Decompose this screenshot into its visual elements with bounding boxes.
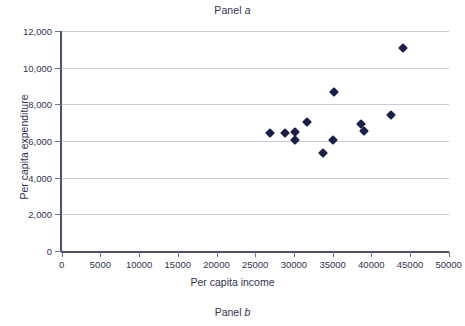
scatter-figure: Panel a 02,0004,0006,0008,00010,00012,00… (0, 0, 465, 326)
y-tick (55, 178, 61, 179)
x-tick (217, 252, 218, 257)
x-tick (371, 252, 372, 257)
x-tick-label: 5000 (90, 259, 111, 270)
x-tick-label: 50000 (435, 259, 461, 270)
x-tick (62, 252, 63, 257)
data-point (302, 117, 312, 127)
x-tick (178, 252, 179, 257)
data-point (265, 128, 275, 138)
x-tick (255, 252, 256, 257)
x-tick-label: 40000 (358, 259, 384, 270)
y-tick-label: 12,000 (23, 26, 52, 37)
y-tick-label: 0 (47, 246, 52, 257)
data-point (329, 87, 339, 97)
y-tick (55, 104, 61, 105)
x-tick (294, 252, 295, 257)
data-point (386, 110, 396, 120)
y-tick-label: 2,000 (28, 209, 52, 220)
y-axis-title: Per capita expenditure (18, 67, 30, 227)
plot-wrap: 02,0004,0006,0008,00010,00012,0000500010… (0, 0, 465, 300)
y-tick-label: 6,000 (28, 136, 52, 147)
data-point (290, 127, 300, 137)
panel-caption: Panel b (0, 306, 465, 318)
x-tick (100, 252, 101, 257)
data-point (328, 135, 338, 145)
y-tick (55, 31, 61, 32)
x-tick-label: 30000 (281, 259, 307, 270)
gridline-y (62, 31, 449, 32)
x-tick (333, 252, 334, 257)
gridline-y (62, 104, 449, 105)
gridline-y (62, 141, 449, 142)
x-tick-label: 0 (59, 259, 64, 270)
x-tick-label: 15000 (165, 259, 191, 270)
y-tick (55, 214, 61, 215)
y-tick-label: 8,000 (28, 99, 52, 110)
data-point (280, 128, 290, 138)
x-tick-label: 10000 (126, 259, 152, 270)
y-tick (55, 68, 61, 69)
panel-caption-letter: b (244, 306, 250, 318)
x-tick-label: 20000 (203, 259, 229, 270)
gridline-y (62, 214, 449, 215)
x-axis-title: Per capita income (0, 276, 465, 288)
plot-area (62, 31, 449, 251)
y-tick (55, 141, 61, 142)
data-point (318, 148, 328, 158)
y-tick-label: 4,000 (28, 172, 52, 183)
x-tick (410, 252, 411, 257)
x-tick-label: 25000 (242, 259, 268, 270)
x-tick-label: 45000 (397, 259, 423, 270)
x-tick (449, 252, 450, 257)
x-tick (139, 252, 140, 257)
gridline-y (62, 68, 449, 69)
panel-caption-text: Panel (215, 306, 245, 318)
gridline-y (62, 178, 449, 179)
y-tick (55, 251, 61, 252)
data-point (398, 43, 408, 53)
x-tick-label: 35000 (319, 259, 345, 270)
